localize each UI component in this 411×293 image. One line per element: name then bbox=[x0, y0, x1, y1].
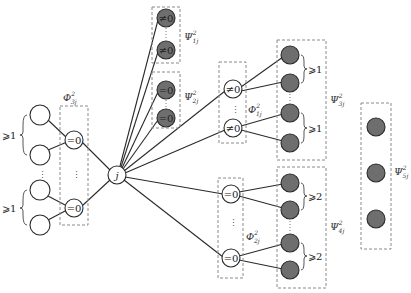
node-label: ≠0 bbox=[159, 13, 174, 24]
psi3-label: Ψ23j bbox=[330, 92, 344, 108]
phi2-label: Φ22j bbox=[246, 229, 260, 245]
node-label: =0 bbox=[224, 189, 239, 200]
vertical-ellipsis: ⋮ bbox=[72, 170, 81, 180]
open-node bbox=[30, 105, 50, 125]
constraint-label: ⩾1 bbox=[308, 123, 322, 134]
filled-node bbox=[281, 134, 299, 152]
filled-node bbox=[367, 210, 385, 228]
filled-node bbox=[367, 164, 385, 182]
node-label: =0 bbox=[159, 85, 174, 96]
psi4-group: ⩾2 ⩾2 Ψ24j bbox=[277, 167, 344, 288]
psi1-group: ≠0 ≠0 Ψ21j bbox=[152, 7, 198, 63]
brace bbox=[301, 243, 307, 270]
node-label: =0 bbox=[224, 253, 239, 264]
psi5-label: Ψ25j bbox=[394, 164, 408, 180]
node-label: ≠0 bbox=[226, 123, 241, 134]
open-node bbox=[30, 180, 50, 200]
brace bbox=[20, 190, 27, 225]
brace bbox=[301, 113, 307, 143]
diagram-svg: ⋮ ⩾1 ⩾1 Φ23j =0 ⋮ =0 j ≠0 ≠0 Ψ21j =0 bbox=[0, 0, 411, 293]
node-label: ≠0 bbox=[226, 84, 241, 95]
vertical-ellipsis: ⋮ bbox=[229, 218, 238, 228]
brace bbox=[301, 55, 307, 83]
filled-node bbox=[281, 174, 299, 192]
psi2-group: =0 =0 Ψ22j bbox=[152, 72, 198, 128]
brace bbox=[20, 115, 27, 155]
constraint-label: ⩾2 bbox=[308, 191, 322, 202]
node-label: =0 bbox=[159, 113, 174, 124]
filled-node bbox=[281, 234, 299, 252]
psi1-label: Ψ21j bbox=[184, 29, 198, 45]
vertical-ellipsis: ⋮ bbox=[231, 105, 240, 115]
filled-node bbox=[281, 74, 299, 92]
left-group: ⋮ ⩾1 ⩾1 Φ23j =0 ⋮ =0 bbox=[2, 90, 88, 235]
phi1-group: ≠0 ⋮ ≠0 Φ21j bbox=[219, 62, 262, 143]
phi3-label: Φ23j bbox=[63, 90, 77, 106]
vertical-ellipsis: ⋮ bbox=[38, 170, 47, 180]
node-label: ≠0 bbox=[159, 45, 174, 56]
center-node: j bbox=[108, 166, 126, 184]
phi1-label: Φ21j bbox=[248, 102, 262, 118]
filled-node bbox=[281, 104, 299, 122]
open-node bbox=[30, 215, 50, 235]
constraint-label: ⩾1 bbox=[2, 203, 16, 214]
psi2-label: Ψ22j bbox=[184, 89, 198, 105]
brace bbox=[301, 183, 307, 210]
filled-node bbox=[367, 118, 385, 136]
psi3-group: ⩾1 ⩾1 Ψ23j bbox=[277, 40, 344, 160]
graph-diagram: ⋮ ⩾1 ⩾1 Φ23j =0 ⋮ =0 j ≠0 ≠0 Ψ21j =0 bbox=[0, 0, 411, 293]
constraint-label: ⩾1 bbox=[308, 64, 322, 75]
filled-node bbox=[281, 46, 299, 64]
psi4-label: Ψ24j bbox=[330, 219, 344, 235]
filled-node bbox=[281, 201, 299, 219]
psi5-group: Ψ25j bbox=[361, 103, 408, 249]
node-label: =0 bbox=[67, 135, 82, 146]
open-node bbox=[30, 145, 50, 165]
constraint-label: ⩾2 bbox=[308, 251, 322, 262]
constraint-label: ⩾1 bbox=[2, 130, 16, 141]
filled-node bbox=[281, 261, 299, 279]
node-label: =0 bbox=[67, 203, 82, 214]
